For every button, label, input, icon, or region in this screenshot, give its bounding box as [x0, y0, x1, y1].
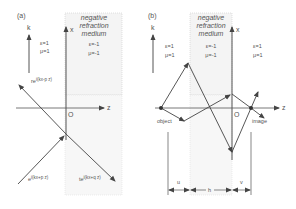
incident-wave-label: ei(kx+p z) [28, 175, 49, 182]
z-label-a: z [107, 104, 111, 111]
z-label-b: z [282, 104, 286, 111]
mu-right-b: μ=1 [253, 52, 262, 58]
object-label: object [157, 118, 172, 124]
medium-title-a3: medium [82, 30, 107, 37]
u-label: u [177, 179, 180, 185]
image-point [249, 106, 253, 110]
medium-title-b2: refraction [196, 22, 225, 29]
origin-label-b: O [234, 111, 240, 118]
h-label: h [208, 187, 211, 193]
eps-neg-a: ε=-1 [89, 41, 100, 47]
eps-neg-b: ε=-1 [206, 43, 217, 49]
panel-a: (a) k ε=1 μ=1 x negative refraction medi… [16, 12, 122, 195]
x-label-b: x [236, 26, 240, 33]
mu-left-a: μ=1 [40, 48, 49, 54]
reflected-ray-a [19, 85, 66, 134]
mu-left-b: μ=1 [165, 52, 174, 58]
diagram-canvas: (a) k ε=1 μ=1 x negative refraction medi… [0, 0, 296, 209]
origin-label-a: O [68, 111, 74, 118]
medium-title-b3: medium [199, 30, 224, 37]
medium-title-b1: negative [198, 14, 225, 22]
eps-right-b: ε=1 [253, 43, 262, 49]
k-label-b: k [151, 24, 155, 31]
mu-neg-b: μ=-1 [205, 52, 216, 58]
ray-lower-5 [251, 108, 264, 118]
panel-b: (b) k ε=1 μ=1 negative refraction medium… [148, 12, 286, 195]
ray-upper-4 [251, 92, 258, 108]
eps-left-a: ε=1 [40, 40, 49, 46]
ray-lower-4 [232, 94, 251, 108]
image-label: image [252, 118, 267, 124]
panel-label-b: (b) [148, 12, 157, 20]
v-label: v [240, 179, 243, 185]
k-label-a: k [27, 24, 31, 31]
medium-title-a2: refraction [79, 22, 108, 29]
object-point [159, 106, 163, 110]
ray-upper-1 [161, 63, 188, 108]
mu-neg-a: μ=-1 [88, 50, 99, 56]
x-label-a: x [70, 26, 74, 33]
medium-title-a1: negative [81, 14, 108, 22]
eps-left-b: ε=1 [165, 43, 174, 49]
panel-label-a: (a) [17, 12, 26, 20]
reflected-wave-label: rei(kx-p z) [31, 77, 52, 84]
